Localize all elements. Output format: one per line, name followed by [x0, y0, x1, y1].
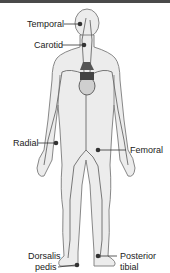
label-posterior-tibial-line2: tibial: [120, 262, 139, 272]
radial-marker: [54, 141, 59, 146]
temporal-marker: [78, 22, 83, 27]
label-posterior-tibial-line1: Posterior: [120, 251, 156, 261]
label-dorsalis-pedis-line2: pedis: [35, 262, 57, 272]
label-temporal: Temporal: [27, 19, 64, 29]
label-dorsalis-pedis-line1: Dorsalis: [28, 251, 61, 261]
dorsalis-pedis-marker: [75, 263, 80, 268]
label-femoral: Femoral: [130, 145, 163, 155]
human-body-figure: [0, 0, 170, 273]
label-carotid: Carotid: [34, 40, 63, 50]
carotid-marker: [82, 43, 87, 48]
label-radial: Radial: [13, 138, 39, 148]
posterior-tibial-marker: [96, 254, 101, 259]
femoral-marker: [96, 148, 101, 153]
